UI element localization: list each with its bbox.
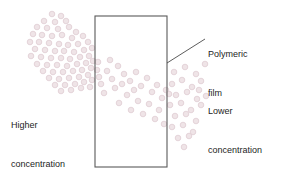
gas-molecule-dot xyxy=(161,121,167,127)
gas-molecule-dot xyxy=(183,111,189,117)
gas-molecule-dot xyxy=(146,101,152,107)
gas-molecule-dot xyxy=(167,102,173,108)
gas-molecule-dot xyxy=(52,19,58,25)
gas-molecule-dot xyxy=(79,67,85,73)
gas-molecule-dot xyxy=(56,76,62,82)
gas-molecule-dot xyxy=(131,87,137,93)
gas-molecule-dot xyxy=(140,111,146,117)
gas-molecule-dot xyxy=(62,82,68,88)
gas-molecule-dot xyxy=(42,47,48,53)
gas-molecule-dot xyxy=(68,87,74,93)
gas-molecule-dot xyxy=(44,25,50,31)
gas-molecule-dot xyxy=(198,78,204,84)
gas-molecule-dot xyxy=(66,24,72,30)
gas-molecule-dot xyxy=(60,69,66,75)
gas-molecule-dot xyxy=(58,13,64,19)
gas-molecule-dot xyxy=(178,100,184,106)
gas-molecule-dot xyxy=(124,92,130,98)
gas-molecule-dot xyxy=(171,69,177,75)
gas-molecule-dot xyxy=(38,54,44,60)
gas-molecule-dot xyxy=(88,65,94,71)
gas-molecule-dot xyxy=(34,24,40,30)
gas-molecule-dot xyxy=(128,107,134,113)
gas-molecule-dot xyxy=(95,59,101,65)
gas-molecule-dot xyxy=(77,54,83,60)
gas-molecule-dot xyxy=(32,46,38,52)
gas-molecule-dot xyxy=(52,82,58,88)
gas-molecule-dot xyxy=(81,47,87,53)
gas-molecule-dot xyxy=(149,89,155,95)
gas-molecule-dot xyxy=(104,68,110,74)
gas-molecule-dot xyxy=(89,45,95,51)
gas-molecule-dot xyxy=(58,55,64,61)
gas-molecule-dot xyxy=(81,79,87,85)
gas-molecule-dot xyxy=(181,144,187,150)
gas-molecule-dot xyxy=(30,31,36,37)
gas-molecule-dots-left xyxy=(27,11,96,94)
gas-permeation-diagram: Higher concentration of a gas Lower conc… xyxy=(0,0,286,177)
gas-molecule-dot xyxy=(52,48,58,54)
gas-molecule-dot xyxy=(152,116,158,122)
gas-molecule-dot xyxy=(74,61,80,67)
gas-molecule-dot xyxy=(109,76,115,82)
gas-molecule-dots-right xyxy=(166,61,209,150)
gas-molecule-dot xyxy=(72,81,78,87)
gas-molecule-dot xyxy=(34,61,40,67)
gas-molecule-dot xyxy=(55,26,61,32)
gas-molecule-dot xyxy=(193,71,199,77)
gas-molecule-dot xyxy=(175,135,181,141)
gas-molecule-dot xyxy=(159,95,165,101)
gas-molecule-dot xyxy=(89,77,95,83)
gas-molecule-dot xyxy=(179,77,185,83)
gas-molecule-dot xyxy=(83,60,89,66)
gas-molecule-dot xyxy=(78,85,84,91)
gas-molecule-dot xyxy=(59,32,65,38)
gas-molecule-dot xyxy=(180,122,186,128)
gas-molecule-dot xyxy=(39,32,45,38)
gas-molecule-dot xyxy=(186,133,192,139)
gas-molecule-dot xyxy=(46,40,52,46)
gas-molecule-dot xyxy=(144,75,150,81)
gas-molecule-dot xyxy=(64,63,70,69)
gas-molecule-dot xyxy=(156,107,162,113)
gas-molecule-dot xyxy=(202,61,208,67)
gas-molecule-dot xyxy=(65,42,71,48)
gas-molecule-dot xyxy=(169,124,175,130)
label-lower-concentration-line-2: concentration xyxy=(208,144,262,157)
gas-molecule-dot xyxy=(133,69,139,75)
gas-molecule-dot xyxy=(189,84,195,90)
gas-molecule-dot xyxy=(96,74,102,80)
gas-molecule-dot xyxy=(70,68,76,74)
gas-molecule-dot xyxy=(127,78,133,84)
callout-leader-line xyxy=(167,39,205,63)
gas-molecule-dot xyxy=(116,100,122,106)
gas-molecule-dot xyxy=(56,41,62,47)
gas-molecule-dot xyxy=(86,53,92,59)
gas-molecule-dot xyxy=(107,57,113,63)
gas-molecule-dot xyxy=(184,89,190,95)
gas-molecule-dot xyxy=(73,29,79,35)
label-polymeric-film-line-1: Polymeric xyxy=(208,48,248,61)
gas-molecule-dot xyxy=(172,113,178,119)
label-polymeric-film-line-2: film xyxy=(208,87,248,100)
gas-molecule-dot xyxy=(198,102,204,108)
gas-molecule-dot xyxy=(63,18,69,24)
gas-molecule-dot xyxy=(98,81,104,87)
gas-molecule-dot xyxy=(173,92,179,98)
label-polymeric-film: Polymeric film xyxy=(208,22,248,126)
gas-molecule-dot xyxy=(71,49,77,55)
gas-molecule-dot xyxy=(85,72,91,78)
gas-molecule-dot xyxy=(119,81,125,87)
gas-molecule-dot xyxy=(101,90,107,96)
gas-molecule-dot xyxy=(196,87,202,93)
gas-molecule-dot xyxy=(50,69,56,75)
gas-molecule-dot xyxy=(40,68,46,74)
gas-molecule-dot xyxy=(44,62,50,68)
gas-molecule-dot xyxy=(87,84,93,90)
gas-molecule-dot xyxy=(138,83,144,89)
gas-molecule-dot xyxy=(121,71,127,77)
gas-molecule-dot xyxy=(135,98,141,104)
gas-molecule-dot xyxy=(85,39,91,45)
gas-molecule-dot xyxy=(75,41,81,47)
gas-molecule-dot xyxy=(61,48,67,54)
